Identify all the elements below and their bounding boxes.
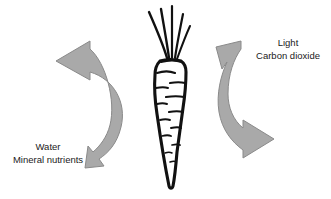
right-label-block: Light Carbon dioxide: [246, 36, 330, 62]
root-scar-6: [169, 111, 183, 112]
root-scar-11: [165, 152, 172, 153]
right-label-line-2: Carbon dioxide: [246, 49, 330, 62]
root-scar-3: [156, 87, 168, 88]
root-scar-8: [171, 127, 181, 128]
root-scar-12: [170, 161, 176, 162]
root-scar-9: [162, 135, 171, 136]
root-scar-4: [166, 96, 184, 97]
left-label-line-2: Mineral nutrients: [4, 153, 92, 166]
root-scar-5: [157, 103, 167, 104]
right-label-line-1: Light: [246, 36, 330, 49]
diagram-canvas: Water Mineral nutrients Light Carbon dio…: [0, 0, 331, 199]
root-scar-10: [172, 144, 180, 145]
root-scar-7: [160, 119, 170, 120]
left-label-block: Water Mineral nutrients: [4, 140, 92, 166]
left-label-line-1: Water: [4, 140, 92, 153]
root-scar-2: [170, 82, 185, 83]
diagram-illustration: [0, 0, 331, 199]
